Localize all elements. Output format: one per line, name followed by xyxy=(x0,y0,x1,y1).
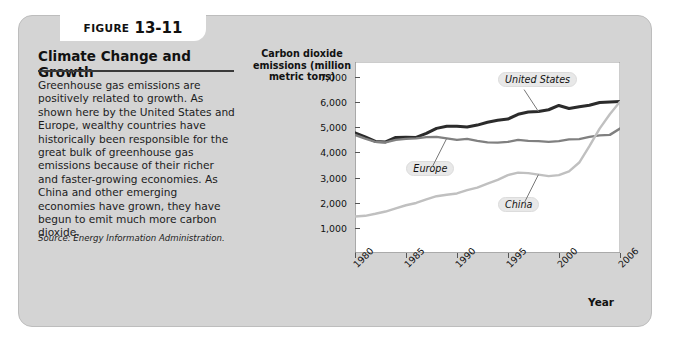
figure-tab-number: 13-11 xyxy=(134,19,182,37)
y-tick-mark xyxy=(355,178,360,179)
y-tick-label: 3,000 xyxy=(0,172,347,183)
y-tick-label: 5,000 xyxy=(0,122,347,133)
y-tick-label: 1,000 xyxy=(0,222,347,233)
series-line xyxy=(355,102,620,217)
figure-screenshot: FIGURE 13-11 Climate Change and Growth G… xyxy=(0,0,674,341)
callout-china: China xyxy=(498,197,539,212)
y-tick-mark xyxy=(355,127,360,128)
y-tick-mark xyxy=(355,203,360,204)
series-line xyxy=(355,129,620,143)
y-tick-label: 2,000 xyxy=(0,197,347,208)
x-axis-title: Year xyxy=(588,296,614,308)
y-tick-mark xyxy=(355,102,360,103)
y-tick-label: 7,000 xyxy=(0,72,347,83)
y-tick-mark xyxy=(355,152,360,153)
y-tick-label: 6,000 xyxy=(0,97,347,108)
chart-plot-area xyxy=(355,62,620,253)
figure-tab-label: FIGURE xyxy=(84,22,130,34)
figure-source: Source: Energy Information Administratio… xyxy=(38,233,248,243)
chart-svg xyxy=(355,62,620,253)
callout-united-states: United States xyxy=(498,72,577,87)
series-line xyxy=(355,101,620,141)
y-tick-mark xyxy=(355,77,360,78)
callout-europe: Europe xyxy=(406,161,454,176)
y-tick-label: 4,000 xyxy=(0,147,347,158)
y-tick-mark xyxy=(355,228,360,229)
figure-number-tab: FIGURE 13-11 xyxy=(60,15,206,41)
